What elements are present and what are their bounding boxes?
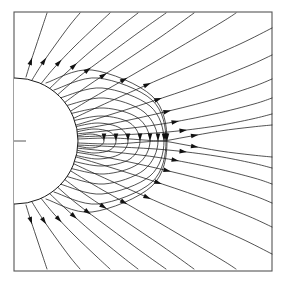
- field-direction-arrow: [120, 76, 129, 84]
- field-direction-arrow: [28, 57, 35, 66]
- field-line: [69, 108, 150, 174]
- field-line: [74, 123, 128, 159]
- field-direction-arrow: [40, 56, 48, 65]
- field-line: [54, 184, 166, 269]
- field-line: [40, 197, 110, 269]
- field-direction-arrow: [154, 179, 163, 186]
- field-direction-arrow: [156, 134, 161, 142]
- field-line-figure: [0, 0, 285, 284]
- field-direction-arrow: [114, 134, 119, 142]
- field-direction-arrow: [191, 144, 199, 150]
- field-direction-arrow: [163, 108, 171, 114]
- field-line: [76, 129, 116, 153]
- field-direction-arrow: [143, 81, 152, 88]
- central-body-layer: [0, 78, 78, 204]
- field-line: [70, 162, 272, 254]
- field-direction-arrow: [171, 119, 179, 125]
- field-line: [26, 205, 47, 269]
- field-direction-arrow: [120, 198, 129, 206]
- field-line: [70, 28, 272, 120]
- field-line: [54, 13, 166, 98]
- field-direction-arrow: [40, 217, 48, 226]
- field-line: [77, 145, 272, 168]
- field-direction-arrow: [163, 168, 171, 174]
- field-line-plot: [0, 0, 285, 284]
- field-line: [32, 13, 80, 80]
- field-direction-arrow: [28, 216, 35, 225]
- field-direction-arrow: [171, 157, 179, 163]
- field-line: [60, 13, 194, 106]
- central-sphere: [0, 78, 78, 204]
- field-line: [78, 141, 272, 157]
- field-direction-arrow: [143, 194, 152, 201]
- field-line: [60, 176, 194, 269]
- field-line: [65, 98, 158, 184]
- field-direction-arrow: [126, 134, 131, 142]
- field-direction-arrow: [148, 134, 153, 142]
- field-line: [26, 13, 47, 77]
- field-line: [78, 125, 272, 141]
- field-line: [32, 202, 80, 269]
- field-direction-arrow: [154, 96, 163, 103]
- field-direction-arrow: [191, 132, 199, 138]
- field-line: [40, 13, 110, 85]
